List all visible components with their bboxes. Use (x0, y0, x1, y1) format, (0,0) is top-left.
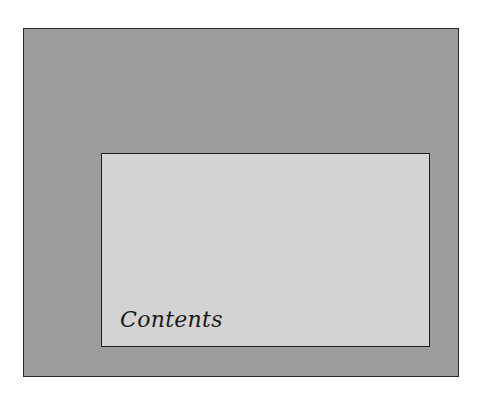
contents-box: Contents (101, 153, 430, 347)
contents-label: Contents (120, 307, 223, 332)
